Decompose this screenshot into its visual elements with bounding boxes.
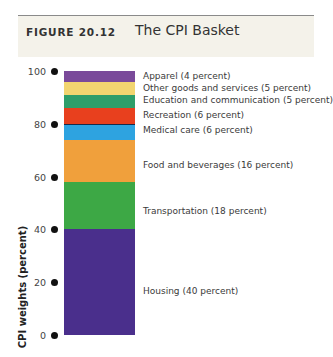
- stacked-bar: [64, 71, 135, 335]
- label-recreation: Recreation (6 percent): [143, 110, 244, 121]
- segment-medical: [64, 124, 135, 141]
- label-food: Food and beverages (16 percent): [143, 160, 293, 171]
- label-medical: Medical care (6 percent): [143, 125, 253, 136]
- segment-transportation: [64, 182, 135, 229]
- y-tick-60: 60: [20, 172, 60, 184]
- segment-food: [64, 140, 135, 182]
- tick-dot-icon: [51, 121, 58, 128]
- tick-dot-icon: [51, 226, 58, 233]
- label-housing: Housing (40 percent): [143, 286, 238, 297]
- y-axis-label: CPI weights (percent): [17, 226, 28, 348]
- tick-dot-icon: [51, 332, 58, 339]
- label-other-goods: Other goods and services (5 percent): [143, 83, 311, 94]
- y-tick-80: 80: [20, 119, 60, 131]
- tick-dot-icon: [51, 174, 58, 181]
- y-tick-100: 100: [20, 66, 60, 78]
- tick-dot-icon: [51, 279, 58, 286]
- label-transportation: Transportation (18 percent): [143, 206, 267, 217]
- segment-recreation: [64, 108, 135, 124]
- label-education: Education and communication (5 percent): [143, 95, 333, 106]
- segment-apparel: [64, 71, 135, 82]
- label-apparel: Apparel (4 percent): [143, 71, 231, 82]
- segment-housing: [64, 229, 135, 335]
- segment-other-goods: [64, 82, 135, 95]
- segment-education: [64, 95, 135, 108]
- tick-dot-icon: [51, 68, 58, 75]
